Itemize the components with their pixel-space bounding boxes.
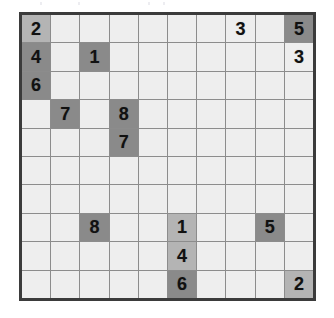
grid-cell[interactable]: [51, 43, 79, 70]
grid-cell[interactable]: [256, 185, 284, 212]
grid-cell[interactable]: [168, 43, 196, 70]
grid-cell[interactable]: [110, 242, 138, 269]
grid-cell[interactable]: [197, 271, 225, 298]
grid-cell[interactable]: [256, 43, 284, 70]
grid-cell[interactable]: [226, 185, 254, 212]
grid-cell[interactable]: [110, 185, 138, 212]
grid-cell[interactable]: 2: [285, 271, 313, 298]
grid-cell[interactable]: 5: [285, 15, 313, 42]
grid-cell[interactable]: 4: [22, 43, 50, 70]
grid-cell[interactable]: [51, 15, 79, 42]
grid-cell[interactable]: [285, 100, 313, 127]
grid-cell[interactable]: [80, 15, 108, 42]
grid-cell[interactable]: 3: [285, 43, 313, 70]
grid-cell[interactable]: [80, 129, 108, 156]
grid-cell[interactable]: 1: [80, 43, 108, 70]
grid-cell[interactable]: [80, 242, 108, 269]
grid-cell[interactable]: [51, 214, 79, 241]
grid-cell[interactable]: [139, 129, 167, 156]
grid-cell[interactable]: [51, 271, 79, 298]
grid-cell[interactable]: [285, 185, 313, 212]
grid-cell[interactable]: [256, 72, 284, 99]
grid-cell[interactable]: [285, 157, 313, 184]
grid-cell[interactable]: [22, 271, 50, 298]
grid-cell[interactable]: [139, 214, 167, 241]
grid-cell[interactable]: [110, 214, 138, 241]
grid-cell[interactable]: 3: [226, 15, 254, 42]
grid-cell[interactable]: [256, 129, 284, 156]
grid-cell[interactable]: [256, 157, 284, 184]
puzzle-grid[interactable]: 2354136787815462: [19, 12, 316, 301]
grid-cell[interactable]: [80, 100, 108, 127]
grid-cell[interactable]: [256, 271, 284, 298]
grid-cell[interactable]: 5: [256, 214, 284, 241]
grid-cell[interactable]: [197, 214, 225, 241]
grid-cell[interactable]: 1: [168, 214, 196, 241]
grid-cell[interactable]: [168, 15, 196, 42]
grid-cell[interactable]: [197, 157, 225, 184]
grid-cell[interactable]: [80, 157, 108, 184]
grid-cell[interactable]: 8: [80, 214, 108, 241]
grid-cell[interactable]: [256, 100, 284, 127]
grid-cell[interactable]: [226, 157, 254, 184]
grid-cell[interactable]: [226, 43, 254, 70]
grid-cell[interactable]: [168, 185, 196, 212]
grid-cell[interactable]: [285, 129, 313, 156]
grid-cell[interactable]: [197, 72, 225, 99]
grid-cell[interactable]: 6: [168, 271, 196, 298]
grid-cell[interactable]: [22, 214, 50, 241]
grid-cell[interactable]: [22, 129, 50, 156]
grid-cell[interactable]: [226, 100, 254, 127]
grid-cell[interactable]: 7: [51, 100, 79, 127]
grid-cell[interactable]: [226, 214, 254, 241]
grid-cell[interactable]: 8: [110, 100, 138, 127]
grid-cell[interactable]: [80, 185, 108, 212]
grid-cell[interactable]: [110, 271, 138, 298]
grid-cell[interactable]: [139, 157, 167, 184]
grid-cell[interactable]: [80, 72, 108, 99]
grid-cell[interactable]: [110, 43, 138, 70]
grid-cell[interactable]: [51, 242, 79, 269]
grid-cell[interactable]: 7: [110, 129, 138, 156]
grid-cell[interactable]: [168, 157, 196, 184]
grid-cell[interactable]: [226, 271, 254, 298]
grid-cell[interactable]: [22, 185, 50, 212]
grid-cell[interactable]: [226, 242, 254, 269]
grid-cell[interactable]: [139, 271, 167, 298]
grid-cell[interactable]: [197, 15, 225, 42]
grid-cell[interactable]: [22, 242, 50, 269]
grid-cell[interactable]: [51, 72, 79, 99]
grid-cell[interactable]: [226, 72, 254, 99]
grid-cell[interactable]: [197, 185, 225, 212]
grid-cell[interactable]: [197, 43, 225, 70]
grid-cell[interactable]: [226, 129, 254, 156]
grid-cell[interactable]: [256, 242, 284, 269]
grid-cell[interactable]: 6: [22, 72, 50, 99]
grid-cell[interactable]: [51, 157, 79, 184]
grid-cell[interactable]: [22, 157, 50, 184]
grid-cell[interactable]: [168, 129, 196, 156]
grid-cell[interactable]: [22, 100, 50, 127]
grid-cell[interactable]: [139, 100, 167, 127]
grid-cell[interactable]: [139, 43, 167, 70]
grid-cell[interactable]: [139, 15, 167, 42]
grid-cell[interactable]: [197, 242, 225, 269]
grid-cell[interactable]: [139, 72, 167, 99]
grid-cell[interactable]: [139, 185, 167, 212]
grid-cell[interactable]: 4: [168, 242, 196, 269]
grid-cell[interactable]: [197, 100, 225, 127]
grid-cell[interactable]: [168, 72, 196, 99]
grid-cell[interactable]: [110, 72, 138, 99]
grid-cell[interactable]: [285, 72, 313, 99]
grid-cell[interactable]: [256, 15, 284, 42]
grid-cell[interactable]: [110, 157, 138, 184]
grid-cell[interactable]: 2: [22, 15, 50, 42]
grid-cell[interactable]: [110, 15, 138, 42]
grid-cell[interactable]: [197, 129, 225, 156]
grid-cell[interactable]: [51, 129, 79, 156]
grid-cell[interactable]: [51, 185, 79, 212]
grid-cell[interactable]: [80, 271, 108, 298]
grid-cell[interactable]: [139, 242, 167, 269]
grid-cell[interactable]: [285, 214, 313, 241]
grid-cell[interactable]: [285, 242, 313, 269]
